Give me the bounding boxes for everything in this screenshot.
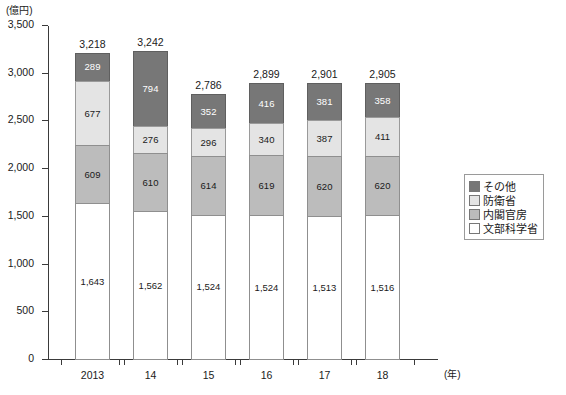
legend-swatch-icon bbox=[469, 209, 480, 220]
bar-segment-value: 358 bbox=[375, 96, 391, 106]
legend-swatch-icon bbox=[469, 223, 480, 234]
bar-segment-value: 620 bbox=[317, 182, 333, 192]
x-axis-unit-label: (年) bbox=[444, 366, 461, 381]
legend-item-文部科学省[interactable]: 文部科学省 bbox=[469, 221, 538, 235]
y-axis-tick-label: 3,500 bbox=[8, 18, 34, 30]
x-axis-tick bbox=[351, 360, 352, 365]
x-axis-tick bbox=[235, 360, 236, 365]
legend-swatch-icon bbox=[469, 195, 480, 206]
y-axis-unit-label: (億円) bbox=[6, 2, 33, 17]
bar-segment-内閣官房[interactable]: 610 bbox=[133, 153, 168, 211]
bar-segment-value: 1,524 bbox=[197, 282, 221, 292]
bar-segment-value: 352 bbox=[201, 107, 217, 117]
bar-segment-value: 1,643 bbox=[81, 277, 105, 287]
y-axis-tick: 0 bbox=[42, 359, 48, 360]
bar-total-label: 2,901 bbox=[311, 68, 337, 80]
bar-segment-value: 381 bbox=[317, 97, 333, 107]
bar-total-label: 2,905 bbox=[369, 68, 395, 80]
legend-item-その他[interactable]: その他 bbox=[469, 179, 538, 193]
bar-segment-防衛省[interactable]: 276 bbox=[133, 126, 168, 152]
bar-total-label: 3,218 bbox=[79, 38, 105, 50]
legend-item-label: 文部科学省 bbox=[483, 220, 538, 236]
x-axis-tick bbox=[182, 360, 183, 365]
bar-segment-文部科学省[interactable]: 1,524 bbox=[249, 215, 284, 360]
y-axis-tick: 2,500 bbox=[42, 120, 48, 121]
bar-segment-その他[interactable]: 416 bbox=[249, 83, 284, 123]
x-axis-tick-label-16: 16 bbox=[261, 369, 273, 381]
bar-15[interactable]: 2,7863522966141,524 bbox=[191, 94, 226, 360]
y-axis-tick-label: 2,000 bbox=[8, 161, 34, 173]
bar-total-label: 2,786 bbox=[195, 79, 221, 91]
y-axis-tick-label: 3,000 bbox=[8, 66, 34, 78]
x-axis-tick bbox=[414, 360, 415, 365]
y-axis-tick: 3,000 bbox=[42, 73, 48, 74]
bar-segment-文部科学省[interactable]: 1,516 bbox=[365, 215, 400, 360]
bar-segment-value: 1,524 bbox=[255, 283, 279, 293]
x-axis-tick-label-14: 14 bbox=[145, 369, 157, 381]
bar-segment-value: 416 bbox=[259, 99, 275, 109]
bar-segment-value: 610 bbox=[143, 178, 159, 188]
x-axis-tick-label-2013: 2013 bbox=[81, 369, 104, 381]
y-axis-tick: 1,000 bbox=[42, 264, 48, 265]
y-axis-tick: 3,500 bbox=[42, 25, 48, 26]
legend-item-防衛省[interactable]: 防衛省 bbox=[469, 193, 538, 207]
x-axis-tick bbox=[177, 360, 178, 365]
x-axis-tick bbox=[61, 360, 62, 365]
x-axis-tick bbox=[119, 360, 120, 365]
legend-swatch-icon bbox=[469, 181, 480, 192]
bar-segment-value: 620 bbox=[375, 181, 391, 191]
bar-segment-value: 340 bbox=[259, 135, 275, 145]
bar-segment-value: 276 bbox=[143, 135, 159, 145]
bar-segment-value: 609 bbox=[85, 170, 101, 180]
bar-segment-文部科学省[interactable]: 1,562 bbox=[133, 211, 168, 360]
y-axis-tick-label: 1,000 bbox=[8, 257, 34, 269]
bar-segment-防衛省[interactable]: 340 bbox=[249, 123, 284, 155]
bar-segment-内閣官房[interactable]: 614 bbox=[191, 156, 226, 215]
bar-2013[interactable]: 3,2182896776091,643 bbox=[75, 53, 110, 360]
bar-16[interactable]: 2,8994163406191,524 bbox=[249, 83, 284, 360]
bar-segment-文部科学省[interactable]: 1,513 bbox=[307, 216, 342, 360]
y-axis-tick: 1,500 bbox=[42, 216, 48, 217]
bar-total-label: 3,242 bbox=[137, 36, 163, 48]
bar-segment-その他[interactable]: 358 bbox=[365, 83, 400, 117]
bar-segment-防衛省[interactable]: 387 bbox=[307, 120, 342, 157]
y-axis-tick-label: 500 bbox=[16, 304, 34, 316]
bar-segment-文部科学省[interactable]: 1,524 bbox=[191, 215, 226, 360]
bar-segment-内閣官房[interactable]: 609 bbox=[75, 145, 110, 203]
bar-segment-value: 1,516 bbox=[371, 283, 395, 293]
bar-segment-内閣官房[interactable]: 620 bbox=[365, 156, 400, 215]
x-axis-tick-label-15: 15 bbox=[203, 369, 215, 381]
bar-segment-その他[interactable]: 352 bbox=[191, 94, 226, 128]
bar-segment-防衛省[interactable]: 677 bbox=[75, 81, 110, 146]
x-axis-tick bbox=[356, 360, 357, 365]
bar-18[interactable]: 2,9053584116201,516 bbox=[365, 83, 400, 360]
stacked-bar-chart: (億円) 05001,0001,5002,0002,5003,0003,500 … bbox=[0, 0, 566, 395]
bar-segment-その他[interactable]: 381 bbox=[307, 83, 342, 119]
bar-segment-防衛省[interactable]: 296 bbox=[191, 128, 226, 156]
bar-segment-内閣官房[interactable]: 619 bbox=[249, 155, 284, 214]
bar-segment-value: 1,562 bbox=[139, 281, 163, 291]
bar-segment-内閣官房[interactable]: 620 bbox=[307, 156, 342, 215]
y-axis-line bbox=[48, 26, 49, 360]
bar-segment-その他[interactable]: 289 bbox=[75, 53, 110, 81]
bar-14[interactable]: 3,2427942766101,562 bbox=[133, 51, 168, 360]
x-axis-tick bbox=[124, 360, 125, 365]
x-axis-tick-label-17: 17 bbox=[319, 369, 331, 381]
bar-segment-value: 1,513 bbox=[313, 283, 337, 293]
bar-segment-その他[interactable]: 794 bbox=[133, 51, 168, 127]
bar-segment-value: 289 bbox=[85, 62, 101, 72]
bar-segment-value: 614 bbox=[201, 181, 217, 191]
y-axis-tick-label: 2,500 bbox=[8, 113, 34, 125]
bar-segment-value: 411 bbox=[375, 132, 390, 142]
bar-segment-value: 619 bbox=[259, 181, 275, 191]
legend-item-内閣官房[interactable]: 内閣官房 bbox=[469, 207, 538, 221]
x-axis-tick bbox=[298, 360, 299, 365]
bar-segment-防衛省[interactable]: 411 bbox=[365, 117, 400, 156]
bar-total-label: 2,899 bbox=[253, 68, 279, 80]
bar-segment-文部科学省[interactable]: 1,643 bbox=[75, 203, 110, 360]
plot-area: 05001,0001,5002,0002,5003,0003,500 3,218… bbox=[48, 26, 438, 360]
x-axis-tick bbox=[240, 360, 241, 365]
y-axis-tick-label: 0 bbox=[28, 352, 34, 364]
bar-17[interactable]: 2,9013813876201,513 bbox=[307, 83, 342, 360]
bar-segment-value: 387 bbox=[317, 134, 333, 144]
